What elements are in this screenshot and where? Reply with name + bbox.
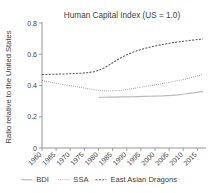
plot-series-group (42, 39, 203, 97)
chart-title: Human Capital Index (US = 1.0) (64, 11, 181, 20)
x-tick-label: 1995 (126, 151, 142, 167)
x-tick-label: 2000 (140, 151, 156, 167)
y-tick-label: 0.2 (27, 113, 37, 120)
x-tick-label: 1960 (27, 151, 43, 167)
y-tick-label: 0.6 (27, 51, 37, 58)
legend-label-ssa: SSA (73, 175, 89, 184)
y-tick-label: 0.4 (27, 82, 37, 89)
x-tick-label: 1975 (69, 151, 85, 167)
x-tick-label: 1985 (97, 151, 113, 167)
x-tick-label: 1965 (41, 151, 57, 167)
chart-legend: BDISSAEast Asian Dragons (21, 175, 177, 184)
legend-label-bdi: BDI (36, 175, 49, 184)
x-tick-label: 1990 (111, 151, 127, 167)
y-tick-label: 0 (33, 145, 37, 152)
y-axis-label: Ratio relative to the United States (4, 30, 13, 143)
y-axis: 00.20.40.60.8 (27, 20, 42, 152)
human-capital-index-line-chart: Human Capital Index (US = 1.0) Ratio rel… (0, 0, 211, 193)
x-axis: 1960196519701975198019851990199520002005… (27, 148, 206, 167)
series-line-ssa (42, 74, 203, 91)
x-tick-label: 1980 (83, 151, 99, 167)
x-tick-label: 2005 (154, 151, 170, 167)
x-tick-label: 2010 (168, 151, 184, 167)
y-tick-label: 0.8 (27, 20, 37, 27)
chart-figure: Human Capital Index (US = 1.0) Ratio rel… (0, 0, 211, 193)
x-tick-label: 1970 (55, 151, 71, 167)
series-line-east-asian-dragons (42, 39, 203, 75)
legend-label-east-asian-dragons: East Asian Dragons (110, 175, 177, 184)
series-line-bdi (98, 92, 203, 98)
x-tick-label: 2015 (182, 151, 198, 167)
